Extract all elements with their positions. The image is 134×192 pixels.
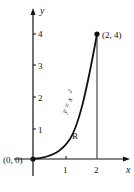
x-tick-label-1: 1 (63, 165, 68, 175)
y-tick-label-1: 1 (38, 125, 43, 135)
parabola-curve (33, 34, 97, 159)
point-2-4 (94, 31, 99, 36)
y-axis-label: y (39, 5, 45, 16)
diagram: y x 4 3 2 1 1 2 (0, 0) (2, 4) R y = x 2 (0, 0, 134, 192)
y-tick-label-3: 3 (38, 61, 43, 71)
x-axis-arrow-icon (123, 157, 130, 162)
x-axis-label: x (125, 164, 131, 175)
region-label: R (72, 131, 78, 141)
curve-label: y = x 2 (57, 88, 77, 115)
origin-point (30, 156, 35, 161)
curve-label-text: y = x (59, 96, 75, 116)
y-tick-label-4: 4 (38, 29, 43, 39)
x-tick-label-2: 2 (94, 165, 99, 175)
y-tick-label-2: 2 (38, 93, 43, 103)
curve-label-exponent: 2 (66, 88, 73, 93)
point-label: (2, 4) (102, 30, 122, 40)
origin-label: (0, 0) (3, 155, 23, 165)
y-axis-arrow-icon (31, 8, 36, 15)
